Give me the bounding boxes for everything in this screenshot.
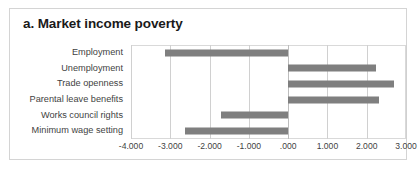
bar-row [131,76,406,92]
x-axis-tick-labels: -4.000-3.000-2.000-1.000.0001.0002.0003.… [131,141,406,155]
bar-row [131,61,406,77]
bar [288,96,379,103]
y-axis-label: Works council rights [41,108,123,124]
bar [221,112,289,119]
y-axis-label: Unemployment [61,61,123,77]
chart-figure: a. Market income poverty EmploymentUnemp… [9,8,407,160]
bar [185,128,288,135]
x-axis-tick-label: -3.000 [158,141,182,151]
gridline [406,45,407,139]
y-axis-label: Minimum wage setting [32,123,123,139]
bar [288,81,394,88]
y-axis-label: Employment [72,45,123,61]
bar-rows [131,45,406,139]
x-axis-tick-label: -2.000 [197,141,221,151]
x-axis-tick-label: 1.000 [317,141,339,151]
y-axis-category-labels: EmploymentUnemploymentTrade opennessPare… [10,45,127,139]
x-axis-tick-label: 2.000 [356,141,378,151]
y-axis-label: Trade openness [57,76,123,92]
chart-title: a. Market income poverty [23,16,183,31]
x-axis-tick-label: -4.000 [119,141,143,151]
plot-area [131,45,406,139]
x-axis-tick-label: .000 [280,141,297,151]
bar-row [131,123,406,139]
bar-row [131,108,406,124]
y-axis-label: Parental leave benefits [30,92,123,108]
x-axis-tick-label: 3.000 [395,141,417,151]
bar-row [131,92,406,108]
bar-row [131,45,406,61]
bar [165,49,288,56]
x-axis-tick-label: -1.000 [237,141,261,151]
bar [288,65,376,72]
